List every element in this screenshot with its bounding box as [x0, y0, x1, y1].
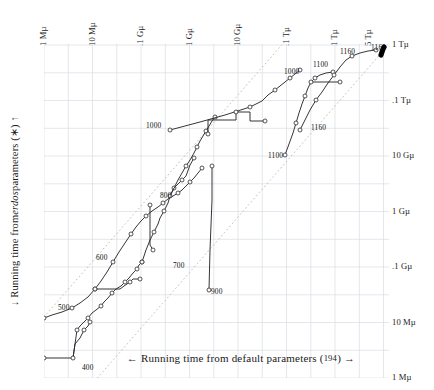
data-point-marker: [110, 291, 114, 295]
y-tick-label: 10 Gµ: [392, 150, 432, 160]
y-tick-label: 1 Gµ: [392, 206, 432, 216]
data-point-label: 700: [173, 261, 185, 270]
y-axis-title-suffix: parameters (∗) ↑: [8, 116, 20, 191]
data-point-marker: [234, 110, 238, 114]
data-point-marker: [332, 73, 336, 77]
y-tick-label: 1 Mµ: [392, 372, 432, 382]
data-point-marker: [99, 304, 103, 308]
data-point-marker: [148, 203, 152, 207]
data-point-marker: [138, 277, 142, 281]
data-point-marker: [128, 280, 132, 284]
data-point-label: 1000: [146, 121, 161, 130]
data-point-marker: [75, 328, 79, 332]
data-point-marker: [129, 232, 133, 236]
data-point-marker: [195, 145, 199, 149]
data-line: [142, 117, 215, 262]
plot-area: [44, 44, 389, 378]
data-point-marker: [210, 164, 214, 168]
data-point-label: 400: [82, 363, 94, 372]
y-tick-label: .1 Tµ: [392, 95, 432, 105]
data-point-label: 1000: [284, 67, 299, 76]
data-point-marker: [184, 164, 188, 168]
data-line: [285, 72, 333, 155]
x-axis-title: ← Running time from default parameters (…: [96, 350, 386, 366]
data-point-marker: [71, 356, 75, 360]
data-point-marker: [144, 214, 148, 218]
data-point-marker: [162, 209, 166, 213]
grid-lines: [44, 44, 389, 378]
y-tick-label: 1 Tµ: [392, 39, 432, 49]
data-point-marker: [161, 201, 165, 205]
data-point-marker: [273, 88, 277, 92]
y-axis-title-italic: erdos: [9, 191, 20, 215]
data-point-label: 1100: [268, 151, 283, 160]
data-point-label: 500: [58, 303, 70, 312]
x-axis-title-paren: 194: [324, 353, 338, 363]
data-line: [44, 168, 202, 318]
data-point-marker: [283, 153, 287, 157]
data-point-marker: [82, 328, 86, 332]
x-axis-title-prefix: ← Running time from default parameters (: [127, 352, 324, 364]
reference-diagonal-line: [44, 45, 282, 317]
x-tick-label: 10 Mµ: [87, 22, 97, 46]
data-point-marker: [70, 306, 74, 310]
data-point-label: 600: [96, 253, 108, 262]
data-point-marker: [168, 128, 172, 132]
x-axis-title-suffix: ) →: [337, 352, 355, 364]
data-point-marker: [338, 80, 342, 84]
data-point-marker: [188, 180, 192, 184]
data-point-marker: [180, 178, 184, 182]
data-point-marker: [111, 260, 115, 264]
data-point-marker: [135, 267, 139, 271]
data-point-label: 1160: [311, 123, 326, 132]
data-point-marker: [298, 128, 302, 132]
data-point-label: 900: [211, 287, 223, 296]
data-point-marker: [314, 98, 318, 102]
data-point-marker: [86, 316, 90, 320]
data-point-marker: [248, 105, 252, 109]
x-tick-label: .1 Gµ: [135, 26, 145, 46]
data-point-label: 800: [160, 191, 172, 200]
data-point-marker: [88, 320, 92, 324]
data-point-marker: [192, 156, 196, 160]
y-tick-label: 10 Mµ: [392, 317, 432, 327]
data-point-marker: [140, 260, 144, 264]
data-point-marker: [123, 280, 127, 284]
data-point-marker: [288, 76, 292, 80]
plot-svg: [44, 44, 389, 378]
x-tick-label: 10 Gµ: [232, 24, 242, 46]
data-point-marker: [152, 230, 156, 234]
data-point-label: 1161: [371, 43, 386, 52]
data-point-marker: [309, 80, 313, 84]
y-axis-title: ↓ Running time from erdos parameters (∗)…: [6, 44, 22, 378]
data-line: [300, 50, 376, 130]
data-point-marker: [44, 356, 46, 360]
y-axis-title-prefix: ↓ Running time from: [9, 215, 20, 306]
data-point-marker: [93, 287, 97, 291]
data-point-marker: [44, 316, 46, 320]
chart-figure: 1 Mµ10 Mµ.1 Gµ1 Gµ10 Gµ.1 Tµ1 Tµ5 Tµ 1 T…: [0, 0, 434, 390]
data-point-marker: [200, 166, 204, 170]
data-point-marker: [263, 119, 267, 123]
data-point-label: 1100: [313, 60, 328, 69]
data-point-marker: [313, 76, 317, 80]
data-point-marker: [206, 132, 210, 136]
y-tick-label: .1 Gµ: [392, 261, 432, 271]
data-point-marker: [176, 191, 180, 195]
data-point-marker: [303, 94, 307, 98]
data-point-marker: [294, 121, 298, 125]
data-line: [209, 166, 212, 290]
data-point-label: 1160: [340, 47, 355, 56]
data-point-marker: [151, 248, 155, 252]
